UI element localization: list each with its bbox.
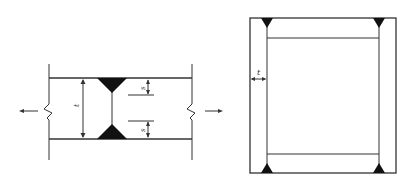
corner-weld-bottom-right: [373, 163, 385, 173]
arrowhead-icon: [146, 122, 150, 127]
right-diagram: [250, 18, 396, 173]
arrowhead-icon: [262, 77, 267, 81]
box-thickness-label: t: [257, 68, 261, 77]
arrow-left-icon: [19, 109, 24, 113]
arrowhead-icon: [81, 79, 86, 84]
thickness-label: t: [72, 103, 81, 107]
bottom-weld-triangle: [97, 124, 127, 139]
arrowhead-icon: [81, 133, 86, 138]
arrowhead-icon: [146, 133, 150, 138]
corner-weld-top-right: [373, 18, 385, 28]
corner-weld-bottom-left: [261, 163, 273, 173]
arrowhead-icon: [146, 80, 150, 85]
outer-box: [250, 18, 396, 173]
arrow-right-icon: [218, 109, 223, 113]
top-weld-triangle: [97, 78, 127, 93]
arrowhead-icon: [251, 77, 256, 81]
corner-weld-top-left: [261, 18, 273, 28]
bottom-throat-label: s: [139, 128, 147, 132]
weld-diagram: t s s t: [0, 0, 412, 185]
top-throat-label: s: [139, 86, 147, 90]
